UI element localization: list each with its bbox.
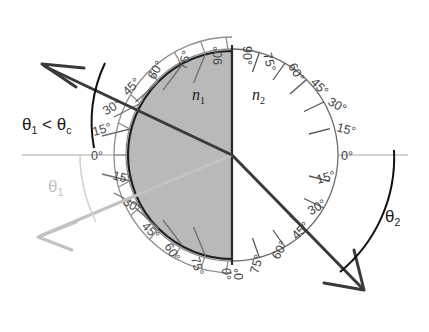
left-tick-label-45u: 45° xyxy=(120,75,143,98)
right-tick-label-90b: 0° xyxy=(232,268,246,280)
medium-label-n1-sub: 1 xyxy=(200,95,205,106)
incident-angle-label-group: θ1 < θc xyxy=(22,115,71,136)
incident-angle-thetac: θ xyxy=(57,115,66,134)
refracted-angle-sub: 2 xyxy=(394,216,400,228)
left-tick-label-15u: 15° xyxy=(91,120,113,138)
reflected-angle-sub: 1 xyxy=(57,186,63,198)
refracted-angle-label-group: θ2 xyxy=(385,207,400,228)
refracted-angle-theta: θ xyxy=(385,207,394,226)
right-tick-label-0: 0° xyxy=(341,149,353,163)
incident-angle-lt: < xyxy=(37,115,56,134)
left-tick-label-0a: 0° xyxy=(91,149,103,163)
diagram-canvas: 0° 15° 30° 45° 60° 75° 90° 75° 60° 45° 3… xyxy=(0,0,429,332)
refraction-diagram: 0° 15° 30° 45° 60° 75° 90° 75° 60° 45° 3… xyxy=(0,0,429,332)
medium-label-n2-sub: 2 xyxy=(260,95,265,106)
reflected-ray-arrowhead xyxy=(38,222,76,250)
reflected-angle-label-group: θ1 xyxy=(48,177,63,198)
incident-angle-theta1: θ xyxy=(22,115,31,134)
incident-angle-subc: c xyxy=(66,124,71,136)
right-tick-label-15u: 15° xyxy=(335,120,357,138)
reflected-angle-theta: θ xyxy=(48,177,57,196)
medium-label-n2: n xyxy=(252,86,260,103)
medium-label-n1: n xyxy=(192,86,200,103)
left-tick-label-90t: 90° xyxy=(211,46,225,65)
left-tick-label-90b: 0° xyxy=(219,268,233,280)
right-tick-label-90t: 90° xyxy=(240,46,254,65)
